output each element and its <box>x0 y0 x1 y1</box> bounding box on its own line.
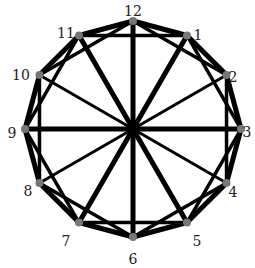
polygon-edge <box>25 75 39 129</box>
polygon-edge <box>227 129 241 183</box>
vertex-label: 1 <box>194 27 203 43</box>
polygon-edge <box>79 223 133 237</box>
vertex-label: 11 <box>57 25 75 41</box>
vertex-label: 2 <box>229 69 238 85</box>
vertex-1 <box>183 31 191 39</box>
vertex-label: 8 <box>24 183 33 199</box>
vertex-11 <box>75 31 83 39</box>
vertex-label: 5 <box>193 233 202 249</box>
vertex-label: 6 <box>129 251 138 267</box>
polygon-edge <box>79 21 133 35</box>
vertex-label: 9 <box>8 125 17 141</box>
polygon-edge <box>133 223 187 237</box>
graph-edges <box>25 21 241 237</box>
vertex-9 <box>21 125 29 133</box>
vertex-label: 4 <box>229 184 238 200</box>
vertex-7 <box>75 219 83 227</box>
polygon-edge <box>133 21 187 35</box>
vertex-8 <box>35 179 43 187</box>
vertex-10 <box>35 71 43 79</box>
vertex-6 <box>129 233 137 241</box>
vertex-5 <box>183 219 191 227</box>
clock-graph-diagram: 121234567891011 <box>0 0 255 268</box>
vertex-label: 7 <box>62 233 71 249</box>
polygon-edge <box>25 129 39 183</box>
vertex-label: 10 <box>12 67 30 83</box>
vertex-label: 3 <box>243 124 252 140</box>
vertex-label: 12 <box>124 3 142 19</box>
